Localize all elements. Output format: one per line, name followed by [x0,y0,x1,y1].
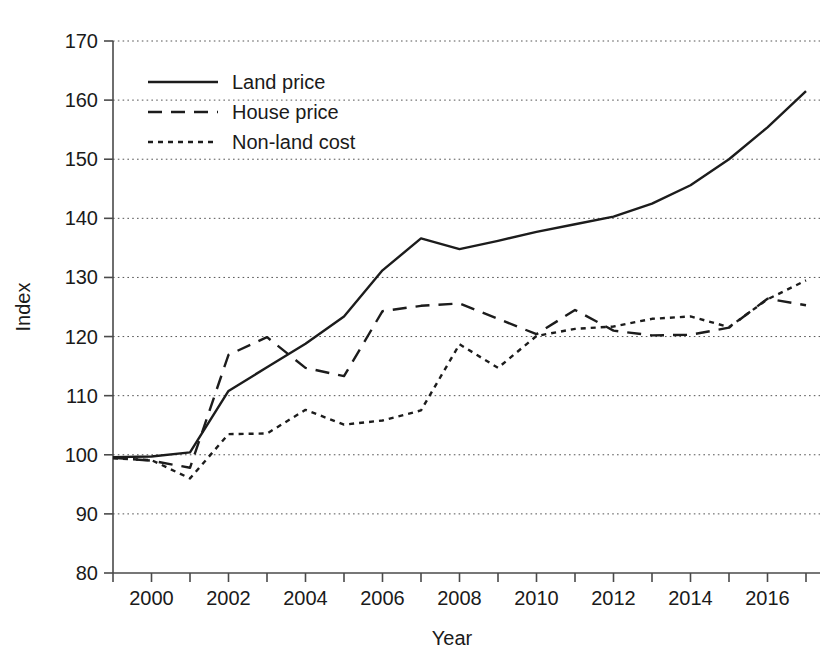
line-chart: 8090100110120130140150160170 20002002200… [0,0,840,667]
chart-canvas: 8090100110120130140150160170 20002002200… [0,0,840,667]
x-axis-title: Year [432,627,473,649]
series-line-land-price [113,91,806,457]
y-tick-label-140: 140 [65,207,98,229]
legend-label-non-land-cost: Non-land cost [232,131,356,153]
x-tick-label-2010: 2010 [514,587,559,609]
series-line-house-price [113,299,806,468]
y-tick-label-90: 90 [76,503,98,525]
y-tick-label-100: 100 [65,444,98,466]
y-tick-marks-group [104,41,113,573]
y-axis-title: Index [12,283,34,332]
x-tick-label-2016: 2016 [745,587,790,609]
x-tick-label-2012: 2012 [591,587,636,609]
x-tick-marks-group [113,573,806,582]
x-tick-label-2006: 2006 [360,587,405,609]
y-tick-label-110: 110 [66,385,98,407]
x-tick-label-2002: 2002 [206,587,251,609]
x-tick-label-2014: 2014 [668,587,713,609]
legend-label-house-price: House price [232,101,339,123]
y-tick-label-130: 130 [65,266,98,288]
y-tick-label-170: 170 [65,30,98,52]
gridlines-group [113,41,820,514]
legend-label-land-price: Land price [232,71,325,93]
legend: Land priceHouse priceNon-land cost [148,71,356,153]
x-tick-label-2000: 2000 [129,587,174,609]
y-tick-labels-group: 8090100110120130140150160170 [65,30,98,584]
x-tick-label-2008: 2008 [437,587,482,609]
y-tick-label-160: 160 [65,89,98,111]
series-line-non-land-cost [113,280,806,478]
y-tick-label-80: 80 [76,562,98,584]
data-series-group [113,91,806,478]
y-tick-label-120: 120 [65,326,98,348]
x-tick-labels-group: 200020022004200620082010201220142016 [129,587,790,609]
x-tick-label-2004: 2004 [283,587,328,609]
y-tick-label-150: 150 [65,148,98,170]
